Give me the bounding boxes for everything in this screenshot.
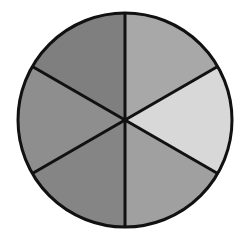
- pie-chart-canvas: [0, 0, 250, 246]
- pie-chart-figure: [0, 0, 250, 246]
